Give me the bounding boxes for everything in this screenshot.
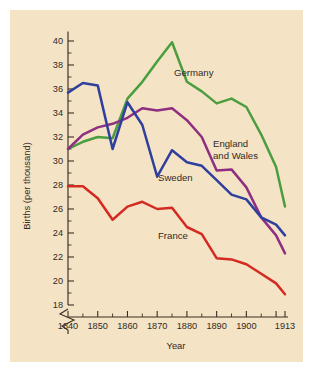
series-label-england-line1: England [213, 138, 248, 149]
y-tick-labels: 182022242628303234363840 [53, 36, 63, 310]
x-tick-label: 1840 [58, 321, 78, 331]
y-tick-label: 20 [53, 276, 63, 286]
data-series-lines [68, 42, 285, 294]
x-axis-title: Year [167, 340, 186, 351]
y-axis-title: Births (per thousand) [21, 142, 32, 230]
x-tick-label: 1860 [117, 321, 137, 331]
line-chart: 182022242628303234363840 184018501860187… [0, 0, 313, 379]
x-tick-labels: 18401850186018701880189019001913 [58, 321, 295, 331]
series-label-france: France [158, 230, 188, 241]
y-tick-label: 32 [53, 132, 63, 142]
y-tick-label: 28 [53, 180, 63, 190]
y-tick-label: 22 [53, 252, 63, 262]
x-tick-label: 1900 [236, 321, 256, 331]
y-tick-label: 36 [53, 84, 63, 94]
x-tick-label: 1913 [275, 321, 295, 331]
y-tick-label: 24 [53, 228, 63, 238]
y-tick-label: 30 [53, 156, 63, 166]
y-tick-label: 26 [53, 204, 63, 214]
y-tick-label: 38 [53, 60, 63, 70]
y-tick-label: 34 [53, 108, 63, 118]
series-label-sweden: Sweden [158, 172, 193, 183]
x-tick-label: 1870 [147, 321, 167, 331]
x-tick-label: 1880 [177, 321, 197, 331]
series-label-germany: Germany [174, 67, 214, 78]
x-tick-label: 1890 [206, 321, 226, 331]
x-tick-label: 1850 [87, 321, 107, 331]
y-tick-label: 18 [53, 300, 63, 310]
y-tick-label: 40 [53, 36, 63, 46]
series-label-england-line2: and Wales [213, 150, 258, 161]
chart-figure: 182022242628303234363840 184018501860187… [0, 0, 313, 379]
